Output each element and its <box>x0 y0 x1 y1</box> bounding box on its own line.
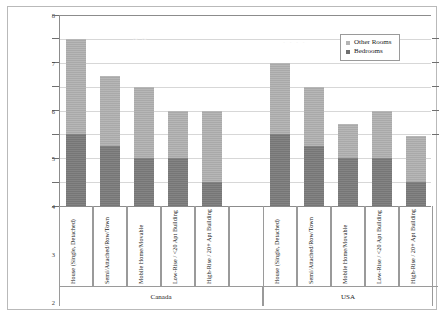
category-label: Semi/Attached/Row/Town <box>103 217 110 284</box>
bar-segment-bedrooms <box>100 146 120 206</box>
group-label-cell: Canada <box>59 287 263 306</box>
category-cell: Mobile Home/Movable <box>331 206 365 286</box>
category-cell: Semi/Attached/Row/Town <box>93 206 127 286</box>
bar-segment-other-rooms <box>134 87 154 159</box>
legend-label: Other Rooms <box>354 38 392 47</box>
bar-segment-other-rooms <box>338 124 358 159</box>
category-cell: Low-Rise / <20 Apt Building <box>365 206 399 286</box>
stacked-bar[interactable] <box>168 111 188 207</box>
category-cell: House (Single, Detached) <box>263 206 297 286</box>
y-tick-label: 3 <box>52 252 55 259</box>
bar-segment-other-rooms <box>100 76 120 146</box>
y-tick-mark-right <box>432 62 439 63</box>
legend-swatch-icon <box>346 41 350 45</box>
bar-slot <box>195 15 229 206</box>
y-tick-mark <box>52 86 59 87</box>
stacked-bar[interactable] <box>304 87 324 206</box>
stacked-bar[interactable] <box>134 87 154 206</box>
bar-slot <box>399 15 433 206</box>
bar-slot <box>127 15 161 206</box>
group-labels: CanadaUSA <box>59 286 438 307</box>
y-tick-label: 5 <box>52 156 55 163</box>
bar-segment-bedrooms <box>202 182 222 206</box>
bar-segment-other-rooms <box>66 39 86 135</box>
stacked-bar[interactable] <box>406 136 426 206</box>
stacked-bar[interactable] <box>338 124 358 206</box>
category-label: Mobile Home/Movable <box>137 225 144 284</box>
y-tick-mark <box>52 38 59 39</box>
bar-slot <box>161 15 195 206</box>
y-tick-label: 6 <box>52 108 55 115</box>
bar-segment-bedrooms <box>168 158 188 206</box>
bar-segment-other-rooms <box>406 136 426 183</box>
bar-segment-bedrooms <box>338 158 358 206</box>
y-tick-mark <box>52 134 59 135</box>
bar-slot <box>297 15 331 206</box>
stacked-bar[interactable] <box>270 63 290 206</box>
group-label-cell: USA <box>263 287 433 306</box>
category-label: House (Single, Detached) <box>69 219 76 284</box>
y-tick-mark <box>52 15 59 16</box>
category-label: High-Rise / 20+ Apt Building <box>205 209 212 284</box>
bar-segment-bedrooms <box>66 134 86 206</box>
legend-item[interactable]: Other Rooms <box>346 38 392 47</box>
bar-segment-other-rooms <box>270 63 290 135</box>
bar-segment-other-rooms <box>168 111 188 159</box>
category-labels: House (Single, Detached)Semi/Attached/Ro… <box>59 206 438 286</box>
y-tick-mark-right <box>432 38 439 39</box>
group-label: USA <box>341 293 355 301</box>
category-label: High-Rise / 20+ Apt Building <box>409 209 416 284</box>
category-cell: High-Rise / 20+ Apt Building <box>399 206 433 286</box>
y-tick-label: 2 <box>52 299 55 306</box>
y-tick-mark-right <box>432 134 439 135</box>
bar-segment-bedrooms <box>304 146 324 206</box>
stacked-bar[interactable] <box>372 111 392 207</box>
bar-segment-bedrooms <box>134 158 154 206</box>
group-label: Canada <box>151 293 172 301</box>
category-gap-cell <box>229 206 263 286</box>
stacked-bar[interactable] <box>202 111 222 207</box>
category-cell: House (Single, Detached) <box>59 206 93 286</box>
category-cell: High-Rise / 20+ Apt Building <box>195 206 229 286</box>
category-label: Low-Rise / <20 Apt Building <box>375 210 382 284</box>
stacked-bar[interactable] <box>100 76 120 206</box>
bar-segment-bedrooms <box>372 158 392 206</box>
y-tick-mark <box>52 182 59 183</box>
category-label: Mobile Home/Movable <box>341 225 348 284</box>
category-label: Low-Rise / <20 Apt Building <box>171 210 178 284</box>
bar-slot <box>263 15 297 206</box>
y-tick-mark-right <box>432 86 439 87</box>
bar-segment-other-rooms <box>202 111 222 183</box>
chart-legend: Other RoomsBedrooms <box>340 34 400 61</box>
category-cell: Semi/Attached/Row/Town <box>297 206 331 286</box>
bar-segment-bedrooms <box>270 134 290 206</box>
bar-slot <box>93 15 127 206</box>
stacked-bar[interactable] <box>66 39 86 206</box>
bar-slot <box>59 15 93 206</box>
category-label: House (Single, Detached) <box>273 219 280 284</box>
legend-item[interactable]: Bedrooms <box>346 47 392 56</box>
bar-segment-other-rooms <box>372 111 392 159</box>
bar-segment-bedrooms <box>406 182 426 206</box>
chart-frame: Rooms 012345678 Other RoomsBedrooms Hous… <box>7 6 437 310</box>
category-label: Semi/Attached/Row/Town <box>307 217 314 284</box>
category-cell: Low-Rise / <20 Apt Building <box>161 206 195 286</box>
legend-swatch-icon <box>346 50 350 54</box>
y-tick-label: 7 <box>52 61 55 68</box>
y-tick-mark-right <box>432 110 439 111</box>
legend-label: Bedrooms <box>354 47 383 56</box>
y-tick-label: 4 <box>52 204 55 211</box>
category-cell: Mobile Home/Movable <box>127 206 161 286</box>
bar-segment-other-rooms <box>304 87 324 147</box>
